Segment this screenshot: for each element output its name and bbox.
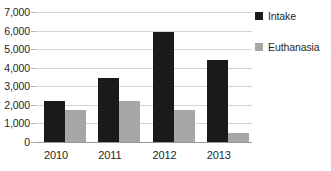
bar-group — [198, 12, 252, 142]
legend: IntakeEuthanasia — [255, 9, 331, 71]
y-axis-tick-label: 3,000 — [4, 81, 30, 92]
y-axis-tick-label: 4,000 — [4, 62, 30, 73]
y-axis-tick-label: 0 — [24, 137, 30, 148]
bar-intake-2012[interactable] — [153, 32, 174, 142]
x-axis-tick-label: 2012 — [144, 145, 198, 167]
y-axis-tick-label: 5,000 — [4, 44, 30, 55]
bar-euthanasia-2011[interactable] — [119, 101, 140, 142]
x-axis-tick-label: 2011 — [89, 145, 143, 167]
y-axis-tick-label: 7,000 — [4, 7, 30, 18]
legend-label: Euthanasia — [268, 42, 320, 53]
bar-intake-2010[interactable] — [44, 101, 65, 142]
legend-swatch-icon — [255, 43, 263, 51]
x-axis-tick-label: 2013 — [198, 145, 252, 167]
x-axis-tick-labels: 2010201120122013 — [35, 145, 252, 167]
bar-intake-2013[interactable] — [207, 60, 228, 142]
y-axis-tick-label: 1,000 — [4, 118, 30, 129]
bar-euthanasia-2012[interactable] — [174, 110, 195, 142]
y-axis-tickmark — [31, 142, 35, 143]
bar-group — [89, 12, 143, 142]
plot-area: 7,0006,0005,0004,0003,0002,0001,0000 201… — [0, 0, 252, 171]
legend-item-euthanasia[interactable]: Euthanasia — [255, 40, 331, 54]
legend-swatch-icon — [255, 12, 263, 20]
x-axis-tick-label: 2010 — [35, 145, 89, 167]
bar-euthanasia-2013[interactable] — [228, 133, 249, 142]
y-axis-tick-labels: 7,0006,0005,0004,0003,0002,0001,0000 — [0, 0, 33, 171]
bar-group — [144, 12, 198, 142]
bar-chart: 7,0006,0005,0004,0003,0002,0001,0000 201… — [0, 0, 331, 171]
bar-groups — [35, 12, 252, 142]
bar-euthanasia-2010[interactable] — [65, 110, 86, 143]
y-axis-tick-label: 2,000 — [4, 100, 30, 111]
plot-grid — [35, 12, 252, 142]
legend-item-intake[interactable]: Intake — [255, 9, 331, 23]
legend-label: Intake — [268, 11, 296, 22]
y-axis-tick-label: 6,000 — [4, 25, 30, 36]
bar-group — [35, 12, 89, 142]
x-axis-line — [35, 142, 252, 143]
bar-intake-2011[interactable] — [98, 78, 119, 142]
